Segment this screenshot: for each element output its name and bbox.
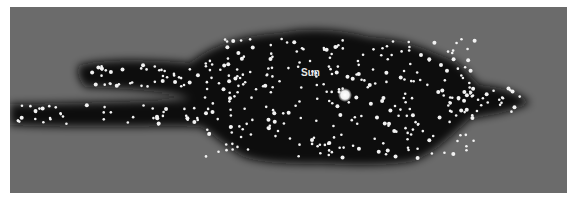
sun-label: Sun [301, 67, 320, 78]
sun-icon [338, 88, 352, 102]
local-star-cloud [10, 7, 567, 193]
star-field-panel: Sun [10, 7, 567, 193]
